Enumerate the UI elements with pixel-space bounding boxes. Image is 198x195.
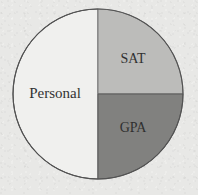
pie-chart-screenshot: Personal SAT GPA xyxy=(0,0,198,195)
pie-chart-figure: Personal SAT GPA xyxy=(0,0,198,195)
pie-label-personal: Personal xyxy=(29,85,81,101)
pie-label-sat: SAT xyxy=(121,51,146,66)
pie-slice-gpa[interactable] xyxy=(98,94,183,179)
pie-label-gpa: GPA xyxy=(120,120,148,135)
